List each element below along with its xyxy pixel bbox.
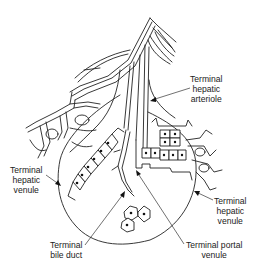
- lower-hepatocyte-cluster: [121, 206, 150, 232]
- label-line: hepatic: [10, 175, 42, 185]
- label-terminal-portal-venule: Terminal portal venule: [186, 240, 242, 260]
- label-line: venule: [10, 185, 42, 195]
- label-terminal-hepatic-venule-left: Terminal hepatic venule: [10, 165, 42, 196]
- liver-acinus-diagram: [0, 0, 259, 269]
- label-line: Terminal: [214, 196, 246, 206]
- label-line: Terminal: [190, 74, 222, 84]
- label-line: venule: [214, 216, 246, 226]
- label-line: hepatic: [190, 84, 222, 94]
- label-line: Terminal: [50, 240, 82, 250]
- label-line: Terminal: [10, 165, 42, 175]
- label-line: bile duct: [50, 250, 82, 260]
- left-sinusoid-network: [26, 92, 100, 158]
- label-line: venule: [186, 250, 242, 260]
- label-terminal-bile-duct: Terminal bile duct: [50, 240, 82, 260]
- label-line: arteriole: [190, 94, 222, 104]
- label-terminal-hepatic-arteriole: Terminal hepatic arteriole: [190, 74, 222, 105]
- label-line: hepatic: [214, 206, 246, 216]
- right-hepatocyte-block: [136, 118, 222, 190]
- left-hepatocyte-plate: [68, 128, 124, 200]
- label-line: Terminal portal: [186, 240, 242, 250]
- label-terminal-hepatic-venule-right: Terminal hepatic venule: [214, 196, 246, 227]
